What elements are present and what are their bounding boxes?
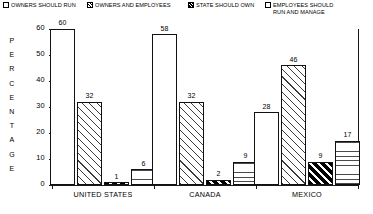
bar-state-should-own <box>308 162 333 185</box>
y-tick-label: 60 <box>36 24 44 32</box>
x-axis-category-label: CANADA <box>154 191 256 199</box>
bar-value-label: 32 <box>179 92 204 100</box>
bar-value-label: 28 <box>254 103 279 111</box>
bar-slot: 9 <box>308 29 333 185</box>
legend-label: EMPLOYEES SHOULD RUN AND MANAGE <box>273 2 339 15</box>
legend-swatch-white-icon <box>3 2 9 8</box>
bar-value-label: 17 <box>335 131 360 139</box>
bar-slot: 46 <box>281 29 306 185</box>
bar-chart: OWNERS SHOULD RUN OWNERS AND EMPLOYEES S… <box>0 0 373 214</box>
bar-value-label: 32 <box>77 92 102 100</box>
legend-swatch-horizontal-icon <box>265 2 271 8</box>
bar-slot: 60 <box>50 29 75 185</box>
bar-owners-and-employees <box>77 102 102 185</box>
y-tick-label: 50 <box>36 50 44 58</box>
bar-value-label: 58 <box>152 25 177 33</box>
bar-value-label: 1 <box>104 173 129 181</box>
bar-group-mexico: 28 46 9 17 MEXICO <box>256 29 358 185</box>
bar-owners-should-run <box>152 34 177 185</box>
legend-label: STATE SHOULD OWN <box>196 2 254 9</box>
x-axis-category-label: UNITED STATES <box>52 191 154 199</box>
legend-swatch-diagonal-icon <box>87 2 93 8</box>
y-axis-title-line: E <box>6 48 18 62</box>
y-axis-title-line: A <box>6 133 18 147</box>
bar-state-should-own <box>206 180 231 185</box>
bar-group-united-states: 60 32 1 6 UNITED STATES <box>52 29 154 185</box>
y-axis-title-line: N <box>6 105 18 119</box>
bar-owners-and-employees <box>179 102 204 185</box>
bar-slot: 17 <box>335 29 360 185</box>
plot-area: 60 50 40 30 20 10 0 60 <box>52 29 359 186</box>
y-axis-title-line: R <box>6 62 18 76</box>
legend-swatch-black-icon <box>188 2 194 8</box>
y-axis-title-line: C <box>6 77 18 91</box>
bar-value-label: 46 <box>281 56 306 64</box>
bar-owners-should-run <box>50 29 75 185</box>
bar-owners-and-employees <box>281 65 306 185</box>
y-axis-title-line: E <box>6 91 18 105</box>
bar-slot: 1 <box>104 29 129 185</box>
bar-slot: 2 <box>206 29 231 185</box>
legend-item-state-should-own: STATE SHOULD OWN <box>188 2 254 9</box>
y-axis-title-line: G <box>6 148 18 162</box>
bar-slot: 32 <box>77 29 102 185</box>
bar-slot: 32 <box>179 29 204 185</box>
legend-label: OWNERS SHOULD RUN <box>11 2 76 9</box>
y-tick-label: 30 <box>36 102 44 110</box>
legend-label: OWNERS AND EMPLOYEES <box>95 2 171 9</box>
y-tick-label: 10 <box>36 154 44 162</box>
y-tick-label: 0 <box>40 180 44 188</box>
y-axis-title: P E R C E N T A G E <box>6 34 18 176</box>
x-axis-category-label: MEXICO <box>256 191 358 199</box>
bar-employees-should-run-and-manage <box>335 141 360 185</box>
y-axis-title-line: T <box>6 119 18 133</box>
legend-item-owners-and-employees: OWNERS AND EMPLOYEES <box>87 2 171 9</box>
bar-value-label: 60 <box>50 19 75 27</box>
legend-item-owners-should-run: OWNERS SHOULD RUN <box>3 2 76 9</box>
y-tick-label: 40 <box>36 76 44 84</box>
legend-item-employees-should-run-and-manage: EMPLOYEES SHOULD RUN AND MANAGE <box>265 2 339 15</box>
chart-legend: OWNERS SHOULD RUN OWNERS AND EMPLOYEES S… <box>0 0 373 20</box>
y-axis-title-line: P <box>6 34 18 48</box>
bar-slot: 28 <box>254 29 279 185</box>
bar-value-label: 9 <box>308 152 333 160</box>
bar-slot: 58 <box>152 29 177 185</box>
y-axis-title-line: E <box>6 162 18 176</box>
bar-group-canada: 58 32 2 9 CANADA <box>154 29 256 185</box>
bar-owners-should-run <box>254 112 279 185</box>
bar-value-label: 2 <box>206 170 231 178</box>
bar-state-should-own <box>104 182 129 185</box>
y-tick-label: 20 <box>36 128 44 136</box>
x-axis-line <box>52 185 359 186</box>
